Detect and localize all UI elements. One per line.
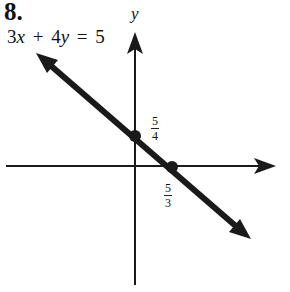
y-intercept-label: 5 4 [151,115,159,142]
x-intercept-label: 5 3 [164,182,172,209]
y-intercept-point [129,130,141,142]
graph [0,0,290,292]
graph-line [50,65,238,228]
x-intercept-point [166,161,178,173]
